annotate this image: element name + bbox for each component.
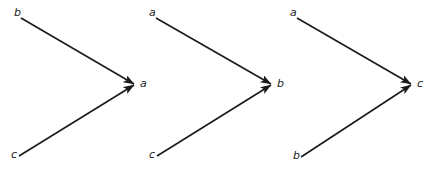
edge-c-to-a — [19, 85, 134, 156]
diagram-canvas: b c a a c b a b c — [0, 0, 427, 170]
node-label-c-d3: c — [417, 77, 423, 90]
diagram-1: b c a — [11, 6, 147, 161]
edge-c-to-b — [157, 85, 271, 156]
edge-b-to-c — [301, 85, 411, 157]
node-label-a-d1: a — [140, 77, 147, 90]
edge-a-to-b — [156, 18, 271, 84]
node-label-b-d2: b — [277, 77, 284, 90]
node-label-a-d2: a — [149, 6, 156, 19]
diagram-2: a c b — [149, 6, 284, 161]
diagram-3: a b c — [290, 6, 423, 162]
edge-b-to-a — [21, 18, 134, 84]
node-label-c-d1: c — [11, 148, 17, 161]
three-convergent-arrow-diagrams: b c a a c b a b c — [0, 0, 427, 170]
edge-a-to-c — [297, 18, 411, 84]
node-label-a-d3: a — [290, 6, 297, 19]
node-label-b-d3: b — [293, 149, 300, 162]
node-label-b-d1: b — [14, 6, 21, 19]
node-label-c-d2: c — [149, 148, 155, 161]
